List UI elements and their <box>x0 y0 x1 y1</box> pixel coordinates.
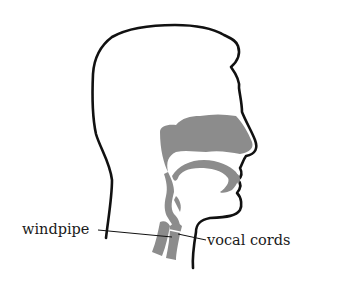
oral-cavity-arch <box>172 160 238 193</box>
head-diagram <box>0 0 342 288</box>
vocal-cords-label: vocal cords <box>207 233 290 248</box>
trachea-front <box>152 221 170 256</box>
diagram-canvas: windpipe vocal cords <box>0 0 342 288</box>
vocal-cords-leader-line <box>178 234 206 240</box>
windpipe-label: windpipe <box>22 222 89 237</box>
epiglottis <box>174 196 181 212</box>
